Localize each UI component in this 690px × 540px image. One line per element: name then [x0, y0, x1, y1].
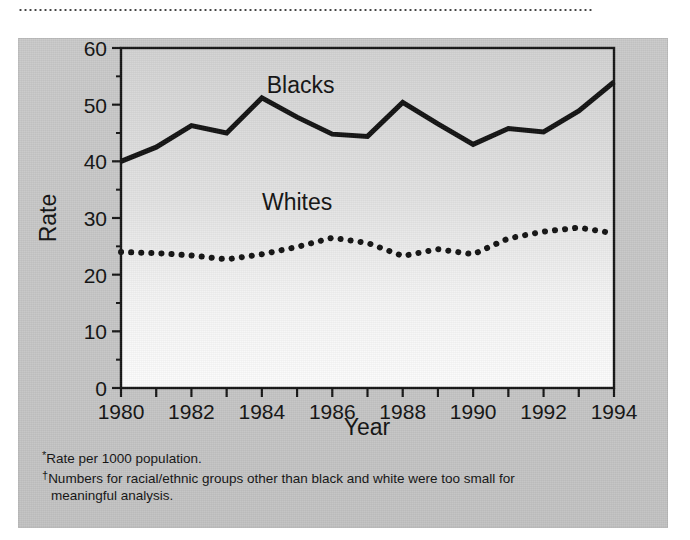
x-tick-label: 1990: [450, 400, 497, 423]
y-tick-label: 30: [84, 207, 107, 230]
y-tick-label: 10: [84, 320, 107, 343]
y-tick-label: 0: [95, 377, 107, 400]
x-tick-label: 1994: [591, 400, 638, 423]
y-tick-label: 60: [84, 38, 107, 60]
footnote-text-2: Numbers for racial/ethnic groups other t…: [48, 471, 515, 486]
x-tick-label: 1984: [238, 400, 285, 423]
footnote-line-2: †Numbers for racial/ethnic groups other …: [42, 468, 642, 488]
y-tick-label: 20: [84, 264, 107, 287]
page-top-dotted-rule: [18, 8, 592, 12]
x-tick-label: 1980: [98, 400, 145, 423]
y-tick-label: 50: [84, 94, 107, 117]
y-axis: 0102030405060: [84, 38, 121, 400]
line-chart-svg: 0102030405060 19801982198419861988199019…: [18, 38, 668, 438]
x-axis-title: Year: [344, 414, 391, 438]
x-tick-label: 1982: [168, 400, 215, 423]
y-axis-title: Rate: [35, 194, 61, 243]
footnotes-block: *Rate per 1000 population. †Numbers for …: [42, 448, 642, 505]
footnote-line-1: *Rate per 1000 population.: [42, 448, 642, 468]
series-label-blacks: Blacks: [267, 72, 335, 98]
footnote-text-3: meaningful analysis.: [51, 488, 173, 503]
footnote-line-3: meaningful analysis.: [42, 487, 642, 505]
x-tick-label: 1992: [520, 400, 567, 423]
footnote-text-1: Rate per 1000 population.: [46, 451, 201, 466]
figure-panel: 0102030405060 19801982198419861988199019…: [18, 38, 668, 528]
series-label-whites: Whites: [262, 189, 332, 215]
plot-background: [121, 48, 614, 388]
y-tick-label: 40: [84, 150, 107, 173]
chart-plot-area: 0102030405060 19801982198419861988199019…: [18, 38, 668, 438]
